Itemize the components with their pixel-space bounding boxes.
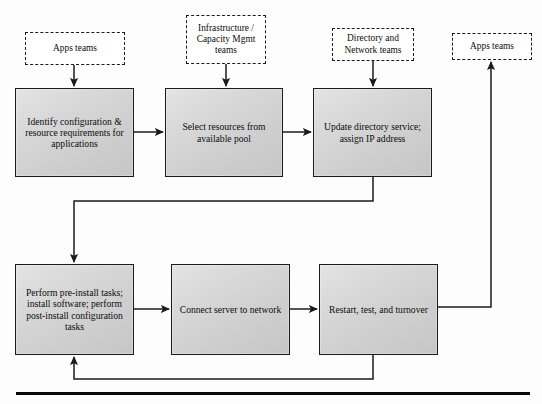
process-select-resources[interactable]: Select resources from available pool bbox=[165, 88, 283, 177]
process-perform-install-tasks-label: Perform pre-install tasks; install softw… bbox=[21, 287, 128, 332]
connector-restart-feedback-to-perform bbox=[74, 355, 373, 379]
actor-infrastructure-capacity-label: Infrastructure / Capacity Mgmt teams bbox=[191, 23, 261, 56]
process-identify-configuration[interactable]: Identify configuration & resource requir… bbox=[15, 88, 134, 177]
actor-directory-network-label: Directory and Network teams bbox=[337, 33, 409, 55]
process-connect-server-label: Connect server to network bbox=[177, 304, 284, 315]
actor-infrastructure-capacity[interactable]: Infrastructure / Capacity Mgmt teams bbox=[186, 15, 266, 64]
actor-apps-teams-left[interactable]: Apps teams bbox=[25, 32, 125, 65]
actor-apps-teams-right[interactable]: Apps teams bbox=[452, 33, 532, 60]
process-identify-configuration-label: Identify configuration & resource requir… bbox=[21, 116, 128, 150]
actor-directory-network[interactable]: Directory and Network teams bbox=[332, 28, 414, 61]
process-restart-test-turnover[interactable]: Restart, test, and turnover bbox=[319, 264, 438, 355]
process-update-directory[interactable]: Update directory service; assign IP addr… bbox=[313, 88, 432, 177]
actor-apps-teams-right-label: Apps teams bbox=[457, 41, 527, 52]
process-update-directory-label: Update directory service; assign IP addr… bbox=[319, 121, 426, 144]
connector-restart-to-apps-right bbox=[438, 62, 491, 307]
process-perform-install-tasks[interactable]: Perform pre-install tasks; install softw… bbox=[15, 264, 134, 355]
process-connect-server[interactable]: Connect server to network bbox=[171, 264, 290, 355]
connector-update-to-perform bbox=[74, 177, 373, 262]
process-restart-test-turnover-label: Restart, test, and turnover bbox=[325, 304, 432, 315]
process-select-resources-label: Select resources from available pool bbox=[171, 121, 277, 144]
footer-rule bbox=[16, 392, 530, 395]
actor-apps-teams-left-label: Apps teams bbox=[30, 43, 120, 54]
flowchart-canvas: Apps teams Infrastructure / Capacity Mgm… bbox=[0, 0, 542, 404]
